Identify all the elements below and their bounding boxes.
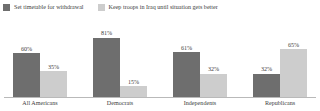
bar-value-label: 32%	[261, 65, 272, 73]
legend-item-set-timetable: Set timetable for withdrawal	[3, 4, 84, 11]
legend-label-series-1: Set timetable for withdrawal	[14, 4, 84, 11]
bar-group-independents: 61% 32%	[160, 14, 240, 97]
bar-value-label: 32%	[208, 65, 219, 73]
plot-area: 60% 35% 81% 15%	[0, 14, 320, 97]
bar-all-americans-series-2	[40, 71, 67, 97]
bar-value-label: 65%	[288, 41, 299, 49]
x-axis-label-independents: Independents	[160, 99, 240, 108]
bar-groups: 60% 35% 81% 15%	[0, 14, 320, 97]
bar-wrap-all-americans-series-2: 35%	[40, 14, 67, 97]
bar-wrap-democrats-series-2: 15%	[120, 14, 147, 97]
bar-group-democrats: 81% 15%	[80, 14, 160, 97]
bar-democrats-series-1	[93, 38, 120, 97]
bar-wrap-independents-series-2: 32%	[200, 14, 227, 97]
legend-label-series-2: Keep troops in Iraq until situation gets…	[109, 4, 218, 11]
legend-swatch-icon-series-2	[98, 4, 105, 11]
bar-independents-series-2	[200, 74, 227, 98]
x-axis-category-labels: All Americans Democrats Independents Rep…	[0, 99, 320, 111]
bar-wrap-republicans-series-2: 65%	[280, 14, 307, 97]
legend-item-keep-troops: Keep troops in Iraq until situation gets…	[98, 4, 218, 11]
bar-wrap-democrats-series-1: 81%	[93, 14, 120, 97]
bar-independents-series-1	[173, 52, 200, 97]
bar-democrats-series-2	[120, 86, 147, 97]
chart-legend: Set timetable for withdrawal Keep troops…	[0, 0, 320, 14]
x-axis-label-democrats: Democrats	[80, 99, 160, 108]
bar-group-republicans: 32% 65%	[240, 14, 320, 97]
x-axis-label-republicans: Republicans	[240, 99, 320, 108]
legend-swatch-icon-series-1	[3, 4, 10, 11]
bar-republicans-series-2	[280, 49, 307, 97]
bar-value-label: 15%	[128, 78, 139, 86]
bar-value-label: 35%	[48, 63, 59, 71]
grouped-bar-chart: Set timetable for withdrawal Keep troops…	[0, 0, 320, 111]
bar-value-label: 81%	[101, 29, 112, 37]
x-axis-baseline	[4, 97, 316, 98]
bar-republicans-series-1	[253, 74, 280, 98]
bar-all-americans-series-1	[13, 53, 40, 97]
bar-wrap-republicans-series-1: 32%	[253, 14, 280, 97]
bar-group-all-americans: 60% 35%	[0, 14, 80, 97]
bar-value-label: 61%	[181, 44, 192, 52]
x-axis-label-all-americans: All Americans	[0, 99, 80, 108]
bar-wrap-independents-series-1: 61%	[173, 14, 200, 97]
bar-value-label: 60%	[21, 45, 32, 53]
bar-wrap-all-americans-series-1: 60%	[13, 14, 40, 97]
